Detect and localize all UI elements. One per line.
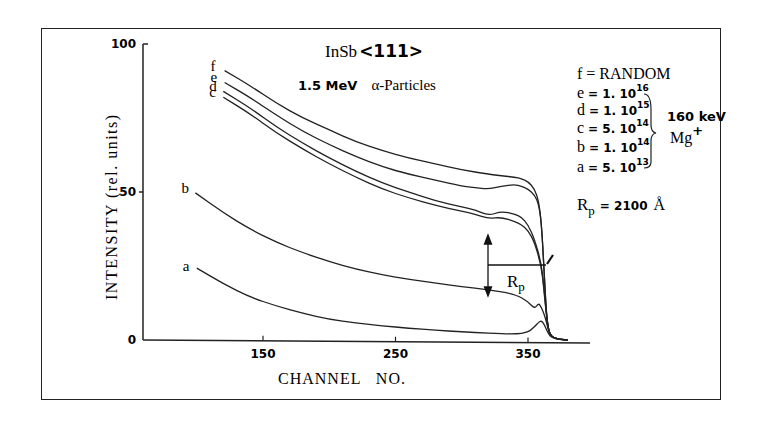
- legend-item-a: a = 5. 1013: [577, 157, 649, 175]
- rbs-spectrum-chart: 050100 150250350 INTENSITY (rel. units) …: [0, 0, 761, 421]
- y-tick-label: 100: [111, 37, 136, 51]
- rp-label: Rp: [507, 272, 525, 294]
- curve-label-a: a: [183, 258, 190, 274]
- x-tick-label: 350: [515, 347, 540, 361]
- curve-label-c: c: [209, 84, 216, 100]
- legend-item-c: c = 5. 1014: [577, 118, 649, 136]
- y-tick-label: 0: [128, 333, 136, 347]
- spectrum-curves: [195, 71, 567, 340]
- x-axis-label: CHANNEL NO.: [278, 370, 406, 387]
- curve-label-b: b: [181, 180, 189, 196]
- curve-e: [225, 83, 568, 341]
- chart-title: InSb<111>: [325, 41, 423, 61]
- legend-item-b: b = 1. 1014: [577, 137, 650, 155]
- chart-subtitle: 1.5 MeVα-Particles: [298, 77, 436, 93]
- y-tick-label: 50: [119, 185, 136, 199]
- legend-item-d: d = 1. 1015: [577, 100, 650, 118]
- x-axis: [143, 336, 590, 343]
- arrow-up-icon: [485, 235, 492, 244]
- legend-item-e: e = 1. 1016: [577, 83, 649, 101]
- curve-c: [223, 97, 568, 340]
- legend-item-f: f = RANDOM: [577, 65, 670, 82]
- bracket-ion: Mg+: [670, 123, 703, 147]
- x-tick-label: 150: [250, 347, 275, 361]
- curve-d: [223, 91, 568, 340]
- x-tick-label: 250: [383, 347, 408, 361]
- rp-value: Rp= 2100Å: [577, 195, 665, 218]
- y-axis: [139, 44, 148, 340]
- arrow-down-icon: [485, 287, 492, 296]
- curve-b: [195, 193, 567, 340]
- bracket-energy: 160 keV: [667, 109, 726, 124]
- legend: f = RANDOMe = 1. 1016d = 1. 1015c = 5. 1…: [577, 65, 670, 175]
- curve-f: [225, 71, 568, 340]
- y-axis-label: INTENSITY (rel. units): [103, 113, 121, 300]
